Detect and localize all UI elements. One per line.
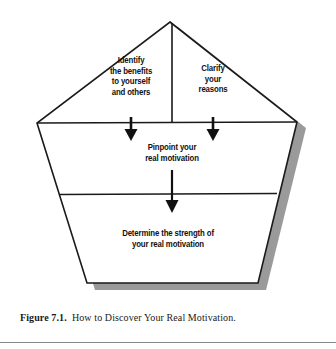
divider-horizontal-upper — [38, 122, 297, 123]
cell-label-determine: Determine the strength of your real moti… — [89, 228, 247, 249]
figure-caption-text: How to Discover Your Real Motivation. — [67, 312, 236, 323]
cell-label-clarify: Clarify your reasons — [183, 63, 244, 95]
page-divider-rule — [0, 342, 336, 343]
cell-label-pinpoint: Pinpoint your real motivation — [117, 142, 227, 163]
cell-label-identify: Identify the benefits to yourself and ot… — [98, 55, 164, 97]
figure-caption-label: Figure 7.1. — [20, 312, 67, 323]
figure-caption: Figure 7.1. How to Discover Your Real Mo… — [20, 312, 320, 323]
figure-container: Identify the benefits to yourself and ot… — [0, 0, 336, 349]
divider-horizontal-lower — [59, 194, 277, 195]
